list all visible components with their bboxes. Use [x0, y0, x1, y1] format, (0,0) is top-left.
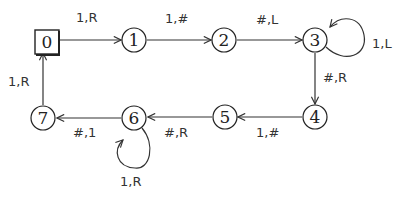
edge-label-5-6: #,R — [164, 125, 188, 140]
state-label-4: 4 — [310, 107, 321, 127]
state-label-5: 5 — [220, 107, 231, 127]
state-4: 4 — [303, 105, 327, 129]
edge-label-0-1: 1,R — [76, 10, 97, 25]
edge-label-4-5: 1,# — [256, 125, 279, 140]
state-label-1: 1 — [129, 30, 140, 50]
state-1: 1 — [122, 28, 146, 52]
edge-4-5: 1,# — [238, 117, 302, 140]
edge-label-1-2: 1,# — [165, 11, 188, 26]
edge-label-6-6: 1,R — [120, 174, 141, 189]
edge-2-3: #,L — [237, 12, 302, 40]
edge-1-2: 1,# — [147, 11, 211, 40]
edge-3-4: #,R — [315, 53, 347, 104]
edge-6-6-loop: 1,R — [117, 128, 150, 189]
state-label-7: 7 — [38, 108, 49, 128]
state-7: 7 — [31, 106, 55, 130]
edge-7-0: 1,R — [8, 53, 43, 105]
state-2: 2 — [212, 28, 236, 52]
edge-3-3-loop: 1,L — [326, 19, 392, 57]
edge-label-3-4: #,R — [323, 70, 347, 85]
state-3: 3 — [303, 28, 327, 52]
state-label-2: 2 — [219, 30, 230, 50]
edge-label-2-3: #,L — [256, 12, 279, 27]
state-0-start: 0 — [35, 30, 60, 55]
state-5: 5 — [213, 105, 237, 129]
state-label-3: 3 — [310, 30, 321, 50]
edge-0-1: 1,R — [58, 10, 121, 40]
edge-label-3-3: 1,L — [372, 36, 392, 51]
edge-6-7: #,1 — [57, 118, 121, 140]
edge-label-7-0: 1,R — [8, 74, 29, 89]
edge-5-6: #,R — [148, 117, 212, 140]
edge-label-6-7: #,1 — [73, 125, 96, 140]
state-label-0: 0 — [42, 32, 53, 52]
state-diagram: 1,R 1,# #,L 1,L #,R 1,# #,R 1,R #,1 1,R — [0, 0, 416, 197]
state-6: 6 — [122, 106, 146, 130]
state-label-6: 6 — [129, 108, 140, 128]
